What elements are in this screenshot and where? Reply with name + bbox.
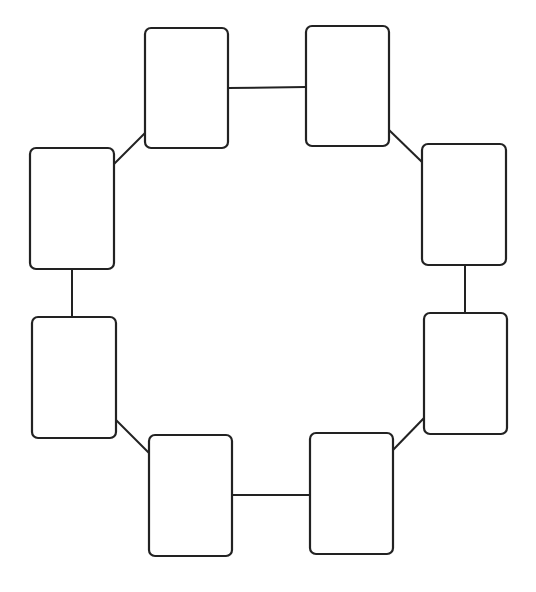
diagram-node-n6 xyxy=(149,435,232,556)
connector-line-n8-n1 xyxy=(114,133,145,164)
node-box xyxy=(30,148,114,269)
cycle-diagram xyxy=(0,0,536,592)
diagram-node-n3 xyxy=(422,144,506,265)
diagram-node-n4 xyxy=(424,313,507,434)
node-box xyxy=(149,435,232,556)
diagram-node-n5 xyxy=(310,433,393,554)
diagram-node-n8 xyxy=(30,148,114,269)
connector-line-n1-n2 xyxy=(228,87,306,88)
connector-line-n2-n3 xyxy=(389,130,422,162)
diagram-node-n1 xyxy=(145,28,228,148)
edges-group xyxy=(72,87,465,495)
connector-line-n4-n5 xyxy=(393,418,424,450)
diagram-node-n7 xyxy=(32,317,116,438)
node-box xyxy=(422,144,506,265)
node-box xyxy=(310,433,393,554)
node-box xyxy=(145,28,228,148)
node-box xyxy=(424,313,507,434)
node-box xyxy=(306,26,389,146)
connector-line-n6-n7 xyxy=(116,420,149,453)
diagram-node-n2 xyxy=(306,26,389,146)
node-box xyxy=(32,317,116,438)
nodes-group xyxy=(30,26,507,556)
